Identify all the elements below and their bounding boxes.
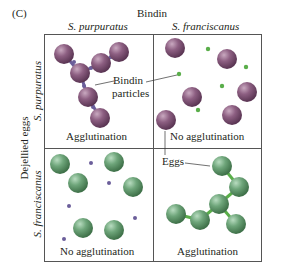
result-franciscanus-franciscanus: Agglutination	[177, 246, 238, 257]
green-egg	[166, 156, 249, 234]
column-header: Bindin	[137, 8, 167, 19]
cell-franciscanus-purpuratus	[50, 152, 143, 241]
column-label-franciscanus: S. franciscanus	[172, 21, 239, 32]
result-purpuratus-purpuratus: Agglutination	[66, 131, 127, 142]
purple-egg	[156, 38, 257, 130]
row-label-purpuratus: S. purpuratus	[32, 61, 43, 121]
cell-franciscanus-franciscanus	[166, 156, 249, 234]
green-egg	[50, 152, 143, 240]
column-label-purpuratus: S. purpuratus	[68, 21, 128, 32]
result-franciscanus-purpuratus: No agglutination	[60, 246, 134, 257]
result-purpuratus-franciscanus: No agglutination	[170, 131, 244, 142]
annotation-eggs: Eggs	[162, 156, 184, 167]
row-header: Dejellied eggs	[19, 116, 30, 179]
annotation-bindin: Bindin	[113, 75, 143, 86]
annotation-particles: particles	[112, 88, 149, 99]
panel-label: (C)	[12, 8, 27, 19]
row-label-franciscanus: S. franciscanus	[32, 170, 43, 237]
